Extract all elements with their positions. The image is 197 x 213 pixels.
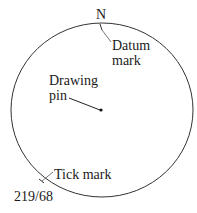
- datum-mark-tick: [100, 24, 102, 30]
- drawing-pin-label-line2: pin: [49, 88, 98, 103]
- datum-mark-label: Datum mark: [112, 38, 150, 68]
- datum-mark-label-line1: Datum: [112, 38, 150, 53]
- drawing-pin-label-line1: Drawing: [49, 73, 98, 88]
- datum-mark-leader: [102, 30, 111, 42]
- drawing-pin-dot: [99, 108, 102, 111]
- bearing-label: 219/68: [14, 189, 53, 204]
- tick-mark-label: Tick mark: [54, 167, 111, 182]
- north-label: N: [96, 7, 106, 22]
- datum-mark-label-line2: mark: [112, 53, 150, 68]
- drawing-pin-label: Drawing pin: [49, 73, 98, 103]
